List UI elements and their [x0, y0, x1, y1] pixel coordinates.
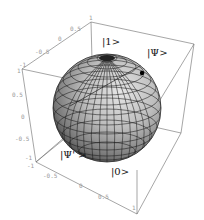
svg-text:-1: -1 [27, 162, 35, 169]
svg-text:0.5: 0.5 [98, 193, 109, 200]
svg-text:-0.5: -0.5 [43, 172, 58, 179]
left-edge-ticks: 1 0.5 0 -0.5 -1 [12, 67, 33, 161]
north-pole-cap [99, 55, 115, 61]
svg-text:0.5: 0.5 [70, 25, 81, 32]
svg-text:0: 0 [79, 182, 83, 189]
psi-point [140, 71, 144, 75]
svg-text:-1: -1 [25, 154, 33, 161]
label-ket-psi-prime: |Ψ' > [60, 149, 86, 161]
svg-text:0: 0 [58, 35, 62, 42]
label-ket-psi: |Ψ> [147, 47, 168, 59]
svg-text:1: 1 [132, 204, 136, 211]
svg-text:1: 1 [89, 14, 93, 21]
svg-text:0.5: 0.5 [12, 91, 23, 98]
svg-text:-0.5: -0.5 [15, 135, 30, 142]
label-ket-zero: |0> [111, 166, 129, 178]
svg-text:1: 1 [17, 67, 21, 74]
svg-text:-0.5: -0.5 [35, 48, 50, 55]
label-ket-one: |1> [102, 36, 120, 48]
bloch-sphere-figure: -1 -0.5 0 0.5 1 1 0.5 0 -0.5 -1 -1 -0.5 … [0, 0, 204, 220]
svg-text:0: 0 [21, 113, 25, 120]
bloch-sphere [53, 54, 161, 162]
